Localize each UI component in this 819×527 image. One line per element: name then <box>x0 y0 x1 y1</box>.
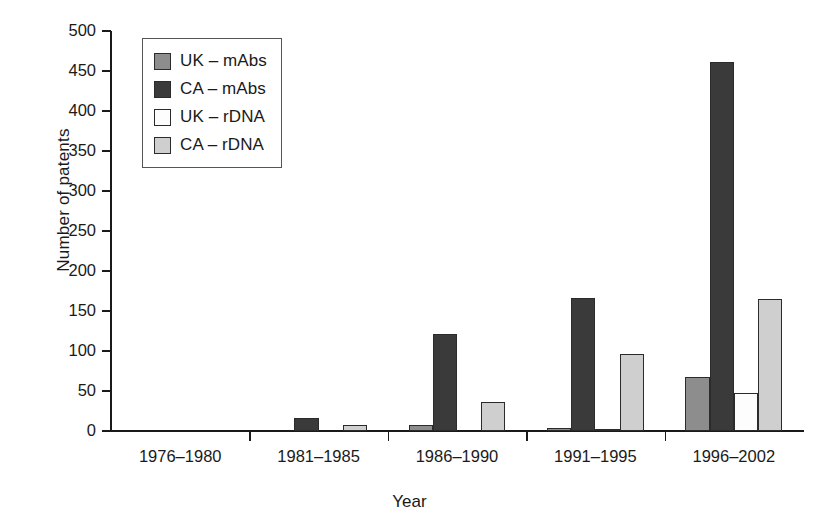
y-axis-tick <box>102 150 111 152</box>
y-axis-tick-label: 450 <box>44 62 96 79</box>
y-axis-tick <box>102 230 111 232</box>
x-axis-tick <box>249 431 251 441</box>
legend-label: UK – rDNA <box>180 107 265 127</box>
x-axis-category-label: 1996–2002 <box>665 447 803 466</box>
y-axis-tick <box>102 70 111 72</box>
bar <box>620 354 644 431</box>
legend-item: UK – mAbs <box>154 47 267 75</box>
bar <box>409 425 433 431</box>
legend-swatch-icon <box>154 109 171 126</box>
y-axis-tick-label: 500 <box>44 22 96 39</box>
y-axis-tick-label: 50 <box>44 382 96 399</box>
bar <box>433 334 457 431</box>
bar <box>595 429 619 431</box>
bar <box>481 402 505 431</box>
y-axis-tick-label: 300 <box>44 182 96 199</box>
legend-item: UK – rDNA <box>154 103 267 131</box>
x-axis-tick <box>526 431 528 441</box>
y-axis-tick-label: 200 <box>44 262 96 279</box>
x-axis-title: Year <box>0 492 819 512</box>
bar <box>294 418 318 431</box>
bar <box>343 425 367 431</box>
y-axis-tick-label: 100 <box>44 342 96 359</box>
y-axis-tick-label: 400 <box>44 102 96 119</box>
y-axis-tick <box>102 350 111 352</box>
legend-label: CA – mAbs <box>180 79 266 99</box>
y-axis-tick <box>102 110 111 112</box>
bar <box>734 393 758 431</box>
y-axis-tick <box>102 190 111 192</box>
y-axis-tick <box>102 390 111 392</box>
y-axis-tick <box>102 30 111 32</box>
legend-label: UK – mAbs <box>180 51 267 71</box>
bar-chart: Number of patents Year 05010015020025030… <box>0 0 819 527</box>
legend-item: CA – rDNA <box>154 131 267 159</box>
legend-swatch-icon <box>154 137 171 154</box>
x-axis-tick <box>665 431 667 441</box>
legend-swatch-icon <box>154 81 171 98</box>
bar <box>710 62 734 431</box>
bar <box>758 299 782 431</box>
y-axis-tick-label: 250 <box>44 222 96 239</box>
y-axis-tick <box>102 310 111 312</box>
bar <box>571 298 595 431</box>
legend-label: CA – rDNA <box>180 135 264 155</box>
y-axis-tick-label: 0 <box>44 422 96 439</box>
x-axis-category-label: 1976–1980 <box>111 447 249 466</box>
x-axis-category-label: 1981–1985 <box>249 447 387 466</box>
chart-legend: UK – mAbsCA – mAbsUK – rDNACA – rDNA <box>142 38 282 168</box>
x-axis-category-label: 1986–1990 <box>388 447 526 466</box>
y-axis-tick-label: 150 <box>44 302 96 319</box>
y-axis-tick <box>102 430 111 432</box>
bar <box>547 428 571 431</box>
legend-swatch-icon <box>154 53 171 70</box>
bar <box>685 377 709 431</box>
y-axis-tick-label: 350 <box>44 142 96 159</box>
y-axis-tick <box>102 270 111 272</box>
x-axis-category-label: 1991–1995 <box>526 447 664 466</box>
x-axis-tick <box>388 431 390 441</box>
legend-item: CA – mAbs <box>154 75 267 103</box>
